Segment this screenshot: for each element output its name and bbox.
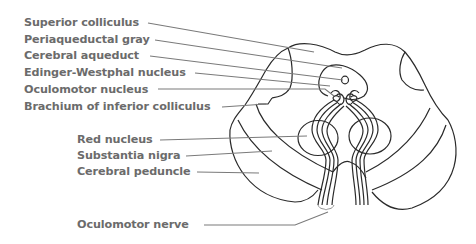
label-edinger-westphal-nucleus: Edinger-Westphal nucleus	[24, 66, 186, 79]
label-periaqueductal-gray: Periaqueductal gray	[24, 33, 150, 46]
label-cerebral-peduncle: Cerebral peduncle	[77, 165, 191, 178]
right-peduncle	[366, 108, 456, 209]
leader-superior-colliculus	[148, 23, 314, 52]
label-oculomotor-nerve: Oculomotor nerve	[77, 218, 189, 231]
label-superior-colliculus: Superior colliculus	[24, 16, 139, 29]
leader-cerebral-peduncle	[197, 172, 259, 173]
leader-oculomotor-nucleus	[158, 89, 334, 96]
oculomotor-fibers-left	[312, 100, 344, 205]
label-red-nucleus: Red nucleus	[77, 133, 153, 146]
leader-substantia-nigra	[186, 151, 272, 156]
periaqueductal-gray-region	[319, 65, 368, 99]
leader-red-nucleus	[160, 136, 307, 140]
oculomotor-nuclei	[331, 91, 359, 105]
label-cerebral-aqueduct: Cerebral aqueduct	[24, 49, 139, 62]
label-substantia-nigra: Substantia nigra	[77, 149, 180, 162]
label-oculomotor-nucleus: Oculomotor nucleus	[24, 83, 148, 96]
red-nucleus-right	[349, 118, 391, 154]
oculomotor-nerve-bracket	[318, 205, 334, 210]
leader-oculomotor-nerve	[204, 212, 328, 225]
label-brachium-of-inferior-colliculus: Brachium of inferior colliculus	[24, 100, 210, 113]
midbrain-diagram: Superior colliculus Periaqueductal gray …	[0, 0, 476, 244]
